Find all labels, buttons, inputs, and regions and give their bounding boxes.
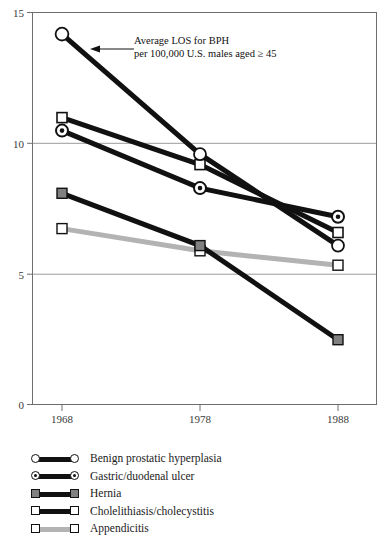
callout-line-1: Average LOS for BPH bbox=[134, 35, 230, 46]
legend-line-swatch bbox=[36, 527, 74, 532]
chart-legend: Benign prostatic hyperplasia Gastric/duo… bbox=[30, 450, 360, 538]
line-chart: 15 10 5 0 1968 1978 1988 bbox=[0, 0, 386, 543]
legend-item-appendicitis[interactable]: Appendicitis bbox=[30, 520, 360, 538]
open-square-icon bbox=[31, 506, 40, 515]
ytick-label-10: 10 bbox=[13, 138, 25, 150]
annotation-bph-callout: Average LOS for BPH per 100,000 U.S. mal… bbox=[90, 35, 277, 59]
xtick-label-1978: 1978 bbox=[189, 413, 212, 425]
open-circle-icon bbox=[31, 454, 40, 463]
legend-key-bullseye-circle bbox=[30, 468, 80, 484]
legend-line-swatch bbox=[36, 474, 74, 479]
open-square-icon bbox=[31, 524, 40, 533]
callout-line-2: per 100,000 U.S. males aged ≥ 45 bbox=[134, 48, 277, 59]
open-circle-icon bbox=[70, 454, 79, 463]
axis-frame bbox=[32, 13, 377, 406]
legend-label: Appendicitis bbox=[80, 523, 149, 535]
filled-gray-square-icon bbox=[70, 489, 79, 498]
legend-label: Cholelithiasis/cholecystitis bbox=[80, 506, 214, 518]
legend-item-hernia[interactable]: Hernia bbox=[30, 485, 360, 503]
legend-item-cholelithiasis-cholecystitis[interactable]: Cholelithiasis/cholecystitis bbox=[30, 503, 360, 521]
open-square-icon bbox=[70, 524, 79, 533]
xtick-label-1968: 1968 bbox=[51, 413, 74, 425]
legend-key-open-circle bbox=[30, 451, 80, 467]
legend-item-gastric-duodenal-ulcer[interactable]: Gastric/duodenal ulcer bbox=[30, 468, 360, 486]
ytick-label-15: 15 bbox=[13, 7, 25, 19]
bullseye-circle-icon bbox=[70, 471, 79, 480]
x-tick-marks bbox=[62, 405, 338, 412]
x-axis-labels: 1968 1978 1988 bbox=[51, 413, 350, 425]
legend-label: Gastric/duodenal ulcer bbox=[80, 471, 194, 483]
legend-key-open-square bbox=[30, 503, 80, 519]
legend-line-swatch bbox=[36, 492, 74, 497]
ytick-label-0: 0 bbox=[19, 399, 25, 411]
callout-arrowhead bbox=[90, 46, 100, 53]
open-square-icon bbox=[70, 506, 79, 515]
legend-line-swatch bbox=[36, 457, 74, 462]
legend-label: Hernia bbox=[80, 488, 121, 500]
y-tick-marks bbox=[27, 13, 32, 405]
filled-gray-square-icon bbox=[31, 489, 40, 498]
ytick-label-5: 5 bbox=[19, 269, 25, 281]
legend-key-gray-square bbox=[30, 486, 80, 502]
legend-line-swatch bbox=[36, 509, 74, 514]
y-axis-labels: 15 10 5 0 bbox=[13, 7, 25, 411]
series-markers bbox=[56, 28, 344, 345]
legend-item-benign-prostatic-hyperplasia[interactable]: Benign prostatic hyperplasia bbox=[30, 450, 360, 468]
legend-key-open-square-light bbox=[30, 521, 80, 537]
xtick-label-1988: 1988 bbox=[327, 413, 350, 425]
legend-label: Benign prostatic hyperplasia bbox=[80, 453, 222, 465]
